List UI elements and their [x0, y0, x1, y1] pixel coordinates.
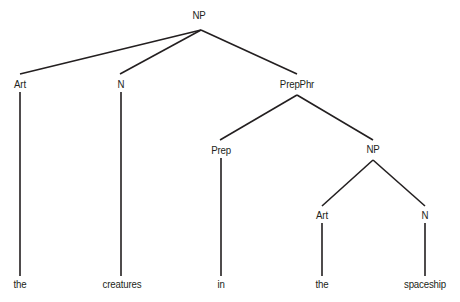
tree-node-n-1: N [118, 79, 125, 90]
tree-edge [322, 160, 373, 206]
tree-node-np-inner: NP [366, 144, 379, 155]
tree-node-prep: Prep [211, 145, 231, 156]
tree-leaf-leaf-spaceship: spaceship [404, 279, 446, 290]
tree-edge [20, 30, 201, 74]
syntax-tree-figure: NPArtNPrepPhrPrepNPArtN thecreaturesinth… [0, 0, 460, 302]
tree-leaf-leaf-creatures: creatures [103, 279, 142, 290]
tree-edge [297, 95, 373, 140]
tree-node-n-2: N [422, 210, 429, 221]
tree-node-prepphr: PrepPhr [280, 79, 314, 90]
tree-terminal-stems [20, 92, 425, 276]
tree-branch-edges [20, 30, 425, 206]
tree-edge [201, 30, 297, 74]
tree-node-np-root: NP [192, 10, 205, 21]
tree-edge [220, 95, 297, 140]
tree-leaf-leaf-the-2: the [316, 279, 329, 290]
tree-leaf-leaf-in: in [217, 279, 224, 290]
tree-leaf-leaf-the-1: the [14, 279, 27, 290]
tree-node-art-1: Art [14, 79, 26, 90]
tree-edge [373, 160, 425, 206]
tree-node-art-2: Art [316, 210, 328, 221]
tree-edge [120, 30, 201, 74]
